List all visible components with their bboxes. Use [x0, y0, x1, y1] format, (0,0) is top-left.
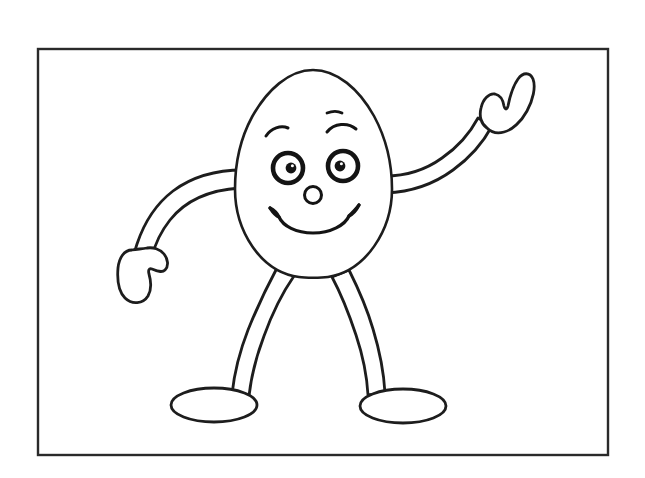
left-foot	[171, 388, 257, 422]
coloring-artboard: Egg Character Coloring Page	[0, 0, 645, 478]
left-eye-glint	[291, 164, 294, 167]
left-eye-pupil	[286, 163, 297, 174]
coloring-page: Egg Character Coloring Page	[0, 0, 645, 478]
nose	[305, 187, 322, 204]
left-eye	[273, 153, 303, 183]
right-eye-glint	[340, 162, 343, 165]
right-foot	[360, 389, 446, 423]
right-eye-pupil	[335, 161, 346, 172]
right-eye	[328, 151, 358, 181]
